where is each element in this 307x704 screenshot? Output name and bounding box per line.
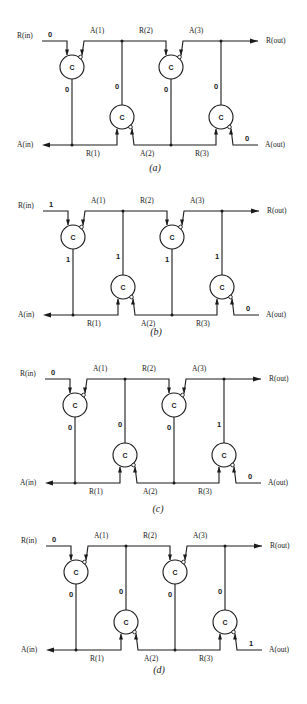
c-element-gate-4: C [212, 443, 236, 467]
inverter-bubble-icon [179, 225, 183, 229]
a-out-value: 0 [245, 134, 249, 143]
arrow-right-icon [254, 544, 262, 549]
c-element-gate-4: C [209, 105, 233, 129]
r-in-label: R(in) [20, 369, 36, 378]
a-out-label: A(out) [268, 478, 288, 487]
c-element-gate-3: C [162, 393, 186, 417]
arrow-up-icon [116, 299, 120, 305]
arrow-up-icon [217, 467, 221, 473]
inverter-bubble-icon [80, 225, 84, 229]
r-out-label: R(out) [266, 36, 286, 45]
arrow-down-icon [164, 50, 168, 56]
c-element-gate-2: C [113, 443, 137, 467]
inverter-bubble-icon [82, 393, 86, 397]
c-element-gate-1: C [64, 560, 88, 584]
stage-4-value: 0 [218, 587, 222, 596]
stage-4-value: 1 [217, 420, 221, 429]
r3-wire [136, 634, 220, 651]
r-out-wire [185, 546, 262, 561]
stage-1-value: 0 [69, 590, 73, 599]
arrow-down-icon [80, 50, 84, 56]
panel-caption: (d) [153, 664, 165, 676]
a-out-value: 0 [248, 472, 252, 481]
arrow-down-icon [83, 388, 87, 394]
arrow-up-icon [118, 467, 122, 473]
panel-d: R(in)0A(1)R(2)A(3)R(out)A(in)R(1)A(2)R(3… [21, 531, 290, 676]
r3-label: R(3) [198, 487, 212, 496]
arrow-down-icon [168, 555, 172, 561]
arrow-left-icon [43, 313, 51, 318]
a1-label: A(1) [94, 531, 109, 540]
arrow-up-icon [119, 634, 123, 640]
a-in-label: A(in) [20, 478, 37, 487]
a1-label: A(1) [93, 364, 108, 373]
panel-b: R(in)1A(1)R(2)A(3)R(out)A(in)R(1)A(2)R(3… [18, 196, 287, 338]
panel-a: R(in)0A(1)R(2)A(3)R(out)A(in)R(1)A(2)R(3… [17, 26, 286, 174]
r-out-wire [182, 211, 259, 226]
c-element-label: C [218, 114, 223, 121]
arrow-down-icon [65, 50, 69, 56]
arrow-down-icon [84, 555, 88, 561]
inverter-bubble-icon [83, 560, 87, 564]
c-element-label: C [123, 619, 128, 626]
c-element-gate-4: C [210, 275, 234, 299]
r-in-wire [45, 379, 70, 393]
arrow-left-icon [45, 481, 53, 486]
arrow-up-icon [133, 467, 137, 473]
a-in-label: A(in) [18, 310, 35, 319]
c-element-gate-1: C [61, 225, 85, 249]
a3-label: A(3) [192, 364, 207, 373]
c-element-label: C [171, 402, 176, 409]
c-element-gate-4: C [213, 610, 237, 634]
c-element-label: C [122, 452, 127, 459]
r3-wire [133, 299, 217, 316]
r-in-value: 0 [48, 30, 52, 39]
arrow-up-icon [215, 299, 219, 305]
arrow-up-icon [131, 299, 135, 305]
panel-caption: (c) [152, 503, 164, 515]
inverter-bubble-icon [229, 295, 233, 299]
stage-1-value: 1 [66, 255, 70, 264]
c-element-label: C [119, 114, 124, 121]
arrow-right-icon [251, 209, 259, 214]
r-in-label: R(in) [18, 201, 34, 210]
r-in-label: R(in) [17, 31, 33, 40]
c-element-gate-3: C [159, 55, 183, 79]
stage-4-value: 0 [214, 82, 218, 91]
r2-wire [83, 211, 167, 226]
arrow-left-icon [42, 143, 50, 148]
panel-caption: (a) [149, 162, 161, 174]
r-out-wire [181, 41, 258, 56]
a-in-label: A(in) [21, 645, 38, 654]
a-out-label: A(out) [269, 645, 289, 654]
muller-pipeline-figure: R(in)0A(1)R(2)A(3)R(out)A(in)R(1)A(2)R(3… [0, 0, 307, 704]
a-out-value: 0 [246, 304, 250, 313]
inverter-bubble-icon [232, 630, 236, 634]
a3-label: A(3) [193, 531, 208, 540]
arrow-up-icon [233, 634, 237, 640]
inverter-bubble-icon [130, 295, 134, 299]
panel-caption: (b) [150, 326, 162, 338]
c-element-label: C [172, 569, 177, 576]
arrow-down-icon [81, 220, 85, 226]
inverter-bubble-icon [129, 125, 133, 129]
c-element-gate-1: C [60, 55, 84, 79]
r-in-value: 0 [51, 368, 55, 377]
stage-3-value: 1 [165, 255, 169, 264]
c-element-gate-3: C [160, 225, 184, 249]
arrow-down-icon [66, 220, 70, 226]
r-out-label: R(out) [269, 374, 289, 383]
arrow-down-icon [179, 50, 183, 56]
r2-label: R(2) [140, 196, 154, 205]
stage-2-value: 0 [119, 587, 123, 596]
stage-3-value: 0 [167, 423, 171, 432]
r3-label: R(3) [199, 654, 213, 663]
arrow-up-icon [214, 129, 218, 135]
arrow-down-icon [165, 220, 169, 226]
arrow-up-icon [232, 467, 236, 473]
r3-label: R(3) [196, 319, 210, 328]
r1-wire [53, 467, 120, 483]
c-element-label: C [120, 284, 125, 291]
c-element-label: C [69, 64, 74, 71]
a1-label: A(1) [90, 26, 105, 35]
